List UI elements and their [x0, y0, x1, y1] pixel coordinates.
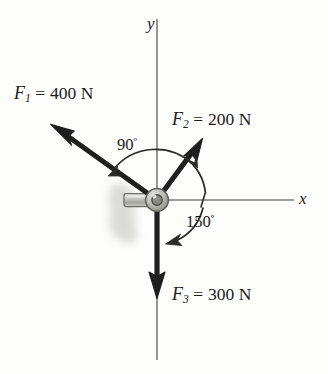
force-unit-f1: N	[81, 83, 94, 103]
force-equals-f3: =	[193, 284, 203, 304]
force-subscript-f1: 1	[25, 92, 31, 104]
force-magnitude-f2: 200	[208, 109, 234, 129]
force-subscript-f3: 3	[183, 293, 189, 305]
force-vector-f1	[51, 124, 158, 200]
angle-arc-150	[166, 159, 206, 246]
force-unit-f3: N	[239, 284, 252, 304]
x-axis-label: x	[299, 190, 307, 207]
angle-label-150: 150º	[186, 213, 214, 230]
force-equals-f2: =	[193, 109, 203, 129]
force-vector-diagram: F1 = 400 N F2 = 200 N F3 = 300 N y x 90º…	[0, 0, 328, 374]
force-label-f2: F2 = 200 N	[172, 110, 251, 131]
degree-symbol-90: º	[134, 135, 137, 147]
force-unit-f2: N	[239, 109, 252, 129]
diagram-canvas	[0, 0, 328, 374]
pin-hub	[146, 189, 169, 212]
force-magnitude-f1: 400	[50, 83, 76, 103]
force-symbol-f1: F	[14, 83, 25, 103]
force-label-f1: F1 = 400 N	[14, 84, 93, 105]
force-symbol-f3: F	[172, 284, 183, 304]
y-axis-label: y	[147, 15, 155, 32]
force-magnitude-f3: 300	[208, 284, 234, 304]
degree-symbol-150: º	[211, 212, 214, 224]
force-vector-f3	[149, 200, 165, 299]
angle-value-90: 90	[117, 135, 134, 154]
force-subscript-f2: 2	[183, 118, 189, 130]
force-equals-f1: =	[35, 83, 45, 103]
force-symbol-f2: F	[172, 109, 183, 129]
angle-label-90: 90º	[117, 136, 137, 153]
angle-value-150: 150	[186, 212, 211, 231]
force-label-f3: F3 = 300 N	[172, 285, 251, 306]
